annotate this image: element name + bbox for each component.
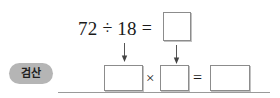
down-arrow-icon-right [172, 45, 181, 65]
dividend-value: 72 [78, 19, 97, 38]
down-arrow-icon-left [120, 43, 129, 63]
quotient-answer-box[interactable] [163, 12, 191, 41]
check-divisor-box[interactable] [104, 65, 143, 91]
division-equation: 72 ÷ 18 = [78, 14, 156, 42]
math-worksheet: 72 ÷ 18 = 검산 × = [0, 0, 280, 98]
check-dividend-box[interactable] [210, 65, 250, 91]
section-divider [58, 92, 270, 93]
check-label-badge: 검산 [9, 63, 53, 84]
check-quotient-box[interactable] [160, 65, 189, 91]
multiplication-sign: × [146, 71, 154, 86]
check-label-text: 검산 [21, 68, 42, 79]
equals-sign: = [142, 19, 152, 37]
divisor-value: 18 [117, 19, 136, 38]
check-equals-sign: = [193, 70, 202, 86]
division-sign: ÷ [102, 19, 112, 37]
